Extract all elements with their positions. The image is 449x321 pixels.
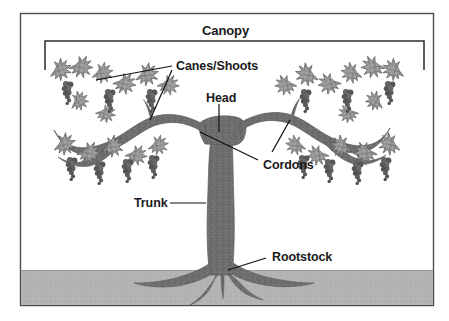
label-rootstock: Rootstock	[272, 251, 332, 264]
label-canes-shoots: Canes/Shoots	[176, 60, 258, 73]
label-cordons: Cordons	[263, 159, 314, 172]
figure-canvas: Canopy Canes/Shoots Head Cordons Trunk R…	[0, 0, 449, 321]
label-canopy: Canopy	[202, 24, 249, 37]
label-head: Head	[206, 92, 236, 105]
grapevine-diagram	[0, 0, 449, 321]
label-trunk: Trunk	[134, 197, 168, 210]
